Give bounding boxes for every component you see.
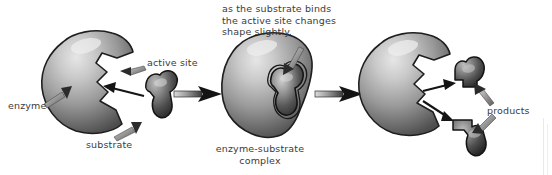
reaction-arrow-1 xyxy=(174,86,222,102)
stage-1-group xyxy=(42,31,178,134)
label-enzyme: enzyme xyxy=(8,100,46,112)
substrate-shape-stage1 xyxy=(146,71,178,118)
edge-artifact xyxy=(543,118,548,175)
pointer-products-upper xyxy=(474,83,494,106)
arrow-substrate-to-site xyxy=(103,82,144,96)
enzyme-diagram: as the substrate binds the active site c… xyxy=(0,0,552,175)
reaction-arrow-2 xyxy=(315,86,363,102)
pointer-active-site xyxy=(120,66,146,76)
release-arrow-upper xyxy=(423,79,456,91)
callout-binding-note: as the substrate binds the active site c… xyxy=(222,3,336,38)
label-active-site: active site xyxy=(147,57,198,69)
label-enzyme-substrate-complex: enzyme-substrate complex xyxy=(196,143,324,166)
label-substrate: substrate xyxy=(86,139,132,151)
pointer-products-lower xyxy=(472,114,496,134)
stage-3-group xyxy=(359,33,486,156)
label-products: products xyxy=(487,105,530,117)
